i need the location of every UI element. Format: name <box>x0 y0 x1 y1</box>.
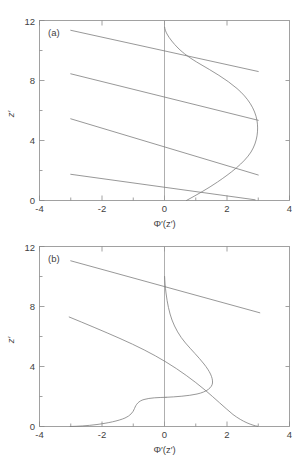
panel-a-ytick-0: 0 <box>30 195 35 206</box>
panel-b-xtick-2: 0 <box>162 429 167 440</box>
panel-b-ytick-2: 8 <box>30 301 35 312</box>
panel-a-ytick-1: 4 <box>30 135 35 146</box>
panel-b-svg: (b) -4 -2 0 2 4 0 4 8 12 Φ′(z′) z′ <box>0 238 306 460</box>
panel-a-ray-1 <box>71 174 255 200</box>
panel-a-xtick-1: -2 <box>98 203 106 214</box>
panel-b-xtick-1: -2 <box>98 429 106 440</box>
panel-a-ytick-3: 12 <box>24 16 35 27</box>
panel-a-xtick-0: -4 <box>35 203 43 214</box>
panel-b-lower-curve <box>70 397 166 426</box>
panel-b-ytick-0: 0 <box>30 421 35 432</box>
panel-b: (b) -4 -2 0 2 4 0 4 8 12 Φ′(z′) z′ <box>0 238 306 460</box>
panel-a-x-ticklabels: -4 -2 0 2 4 <box>35 203 292 214</box>
panel-a-xtick-2: 0 <box>162 203 167 214</box>
panel-b-y-ticklabels: 0 4 8 12 <box>24 242 35 433</box>
panel-a-xtick-3: 2 <box>224 203 229 214</box>
panel-b-s-curve <box>165 277 213 398</box>
panel-b-descending-curve <box>69 317 257 426</box>
panel-a-ytick-2: 8 <box>30 75 35 86</box>
panel-b-xtick-4: 4 <box>287 429 292 440</box>
panel-b-xtick-3: 2 <box>224 429 229 440</box>
figure-root: (a) -4 -2 0 2 4 0 4 8 12 Φ′(z′) z′ <box>0 0 306 467</box>
panel-a-y-ticklabels: 0 4 8 12 <box>24 16 35 207</box>
panel-b-x-ticklabels: -4 -2 0 2 4 <box>35 429 292 440</box>
panel-b-ytick-3: 12 <box>24 242 35 253</box>
panel-a-svg: (a) -4 -2 0 2 4 0 4 8 12 Φ′(z′) z′ <box>0 12 306 234</box>
panel-b-ylabel: z′ <box>5 336 16 345</box>
panel-b-label: (b) <box>48 253 60 264</box>
figure-supertitle <box>0 0 306 5</box>
panel-b-ray-top <box>71 261 260 313</box>
panel-a-xlabel: Φ′(z′) <box>153 218 175 229</box>
panel-a-s-curve <box>165 27 258 201</box>
panel-b-ytick-1: 4 <box>30 361 35 372</box>
panel-a: (a) -4 -2 0 2 4 0 4 8 12 Φ′(z′) z′ <box>0 12 306 234</box>
panel-a-xtick-4: 4 <box>287 203 292 214</box>
panel-b-xtick-0: -4 <box>35 429 43 440</box>
panel-a-label: (a) <box>48 27 60 38</box>
panel-b-xlabel: Φ′(z′) <box>153 444 175 455</box>
panel-a-ylabel: z′ <box>5 110 16 119</box>
